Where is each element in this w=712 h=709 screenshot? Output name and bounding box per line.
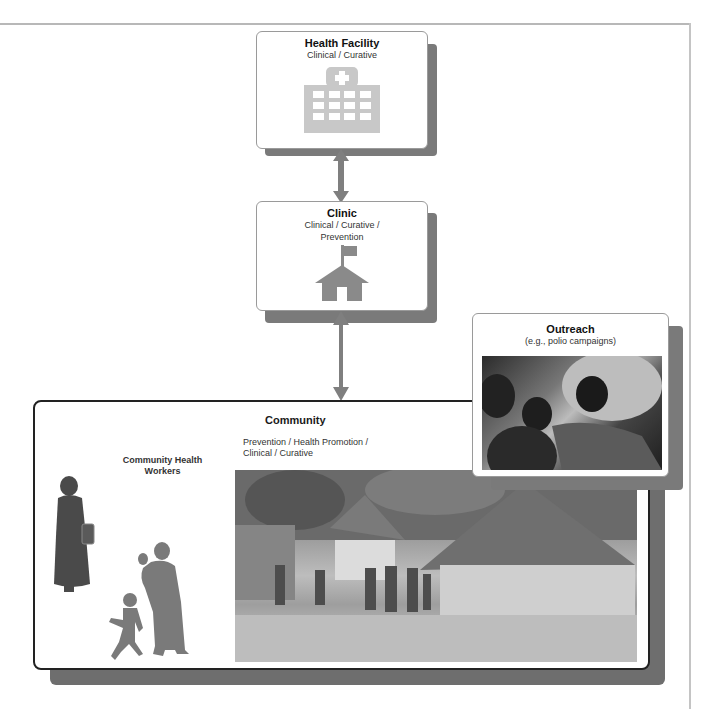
frame-right-border — [689, 23, 691, 709]
clinic-subtitle-line1: Clinical / Curative / — [257, 220, 427, 231]
photo-village-huts — [235, 470, 637, 662]
community-subtitle-line1: Prevention / Health Promotion / — [243, 437, 443, 448]
chw-label-line2: Workers — [115, 466, 210, 477]
community-subtitle-line2: Clinical / Curative — [243, 448, 443, 459]
frame-top-border — [0, 23, 690, 25]
clinic-subtitle-line2: Prevention — [257, 232, 427, 243]
outreach-subtitle: (e.g., polio campaigns) — [473, 336, 668, 347]
chw-label: Community Health Workers — [115, 455, 210, 477]
health-facility-subtitle: Clinical / Curative — [257, 50, 427, 61]
hospital-icon — [304, 67, 380, 133]
mother-and-children-silhouette-icon — [105, 542, 195, 667]
community-subtitle: Prevention / Health Promotion / Clinical… — [243, 437, 443, 459]
clinic-card: Clinic Clinical / Curative / Prevention — [256, 201, 428, 311]
photo-vaccination-outreach — [482, 356, 662, 470]
health-facility-card: Health Facility Clinical / Curative — [256, 31, 428, 149]
community-title: Community — [265, 414, 326, 426]
outreach-title: Outreach — [473, 323, 668, 335]
health-facility-title: Health Facility — [257, 37, 427, 49]
health-worker-silhouette-icon — [52, 476, 98, 596]
double-arrow-icon — [332, 311, 350, 401]
chw-label-line1: Community Health — [115, 455, 210, 466]
clinic-title: Clinic — [257, 207, 427, 219]
double-arrow-icon — [332, 149, 350, 203]
house-with-flag-icon — [315, 245, 369, 301]
